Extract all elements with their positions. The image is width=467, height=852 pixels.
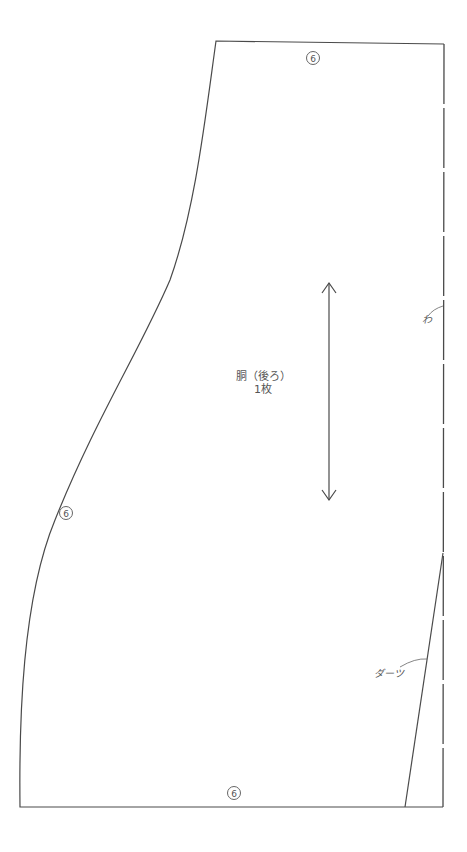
dart-label: ダーツ (374, 668, 404, 680)
fold-line (443, 44, 444, 807)
pattern-outline (20, 41, 444, 807)
pattern-piece-drawing (0, 0, 467, 852)
seam-allowance-mark-side: 6 (59, 506, 73, 520)
dart-line (405, 553, 443, 807)
seam-allowance-mark-top: 6 (306, 51, 320, 65)
dart-leader-line (400, 659, 427, 667)
piece-count: 1枚 (218, 383, 308, 396)
piece-name: 胴（後ろ） (218, 370, 308, 383)
fold-label: わ (422, 314, 432, 326)
grain-line-arrow-icon (322, 283, 336, 500)
seam-allowance-mark-bottom: 6 (227, 786, 241, 800)
piece-title-block: 胴（後ろ） 1枚 (218, 370, 308, 396)
